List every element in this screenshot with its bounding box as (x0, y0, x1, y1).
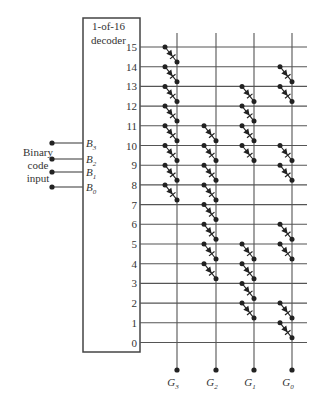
output-label: G2 (206, 376, 218, 391)
binary-to-gray-diode-matrix: 1-of-16 decoder Binary code input B3B2B1… (0, 0, 328, 407)
decoder-line-8: 8 (132, 179, 308, 191)
decoder-line-0: 0 (132, 337, 308, 349)
decoder-line-label: 2 (132, 297, 138, 309)
input-terminal-dot (49, 184, 54, 189)
decoder-line-label: 9 (132, 159, 138, 171)
decoder-line-label: 12 (126, 100, 137, 112)
binary-code-input: Binary code input B3B2B1B0 (23, 137, 97, 196)
output-label: G0 (282, 376, 294, 391)
decoder-line-label: 7 (132, 199, 138, 211)
decoder-line-label: 5 (132, 238, 138, 250)
input-terminal-dot (49, 169, 54, 174)
input-label-line1: Binary (23, 146, 53, 158)
decoder-line-label: 3 (132, 277, 138, 289)
output-terminal-dot (251, 367, 256, 372)
decoder-line-11: 11 (126, 120, 307, 132)
decoder-line-label: 15 (126, 41, 138, 53)
input-terminal-dot (49, 156, 54, 161)
decoder-line-label: 13 (126, 80, 138, 92)
decoder-line-label: 14 (126, 61, 138, 73)
decoder-title-line2: decoder (91, 34, 126, 46)
output-terminal-dot (174, 367, 179, 372)
decoder-line-label: 10 (126, 140, 138, 152)
input-label-line3: input (27, 172, 50, 184)
output-terminal-dot (289, 367, 294, 372)
input-terminal-dot (49, 140, 54, 145)
decoder-line-3: 3 (132, 277, 308, 289)
diode-matrix (163, 45, 295, 341)
decoder-line-label: 0 (132, 337, 138, 349)
decoder-line-label: 8 (132, 179, 138, 191)
decoder-line-7: 7 (132, 199, 308, 211)
decoder-line-label: 4 (132, 258, 138, 270)
output-terminal-dot (213, 367, 218, 372)
input-label-line2: code (28, 159, 49, 171)
decoder-line-label: 1 (132, 317, 138, 329)
decoder-line-label: 6 (132, 218, 138, 230)
output-label: G3 (167, 376, 179, 391)
decoder-line-label: 11 (126, 120, 137, 132)
decoder-title-line1: 1-of-16 (92, 20, 125, 32)
output-label: G1 (244, 376, 255, 391)
decoder-line-4: 4 (132, 258, 308, 270)
